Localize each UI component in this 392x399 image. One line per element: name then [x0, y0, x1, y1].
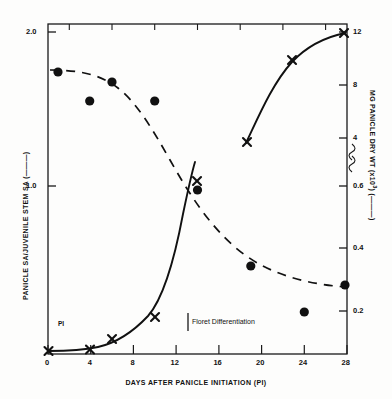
y2-axis-tick-label: 8 — [353, 80, 357, 89]
data-point-circle — [85, 96, 94, 105]
y-axis-tick-label: 2.0 — [26, 27, 36, 36]
x-axis-tick-label: 8 — [130, 358, 134, 367]
left-axis-ticks — [48, 32, 56, 186]
figure-panel: 2.0 1.0 12 8 4 0.6 0.4 0.2 0 4 8 12 16 2… — [0, 0, 392, 399]
x-axis-tick-label: 20 — [256, 358, 264, 367]
top-axis-ticks — [69, 24, 325, 30]
y2-axis-tick-label: 4 — [353, 133, 357, 142]
x-axis-tick-label: 12 — [171, 358, 179, 367]
panicle-sa-fit-curve — [50, 70, 345, 287]
data-point-circle — [193, 185, 202, 194]
data-point-x — [151, 313, 159, 321]
y2-axis-title-tail: ) (———) — [369, 189, 376, 221]
x-axis-tick-label: 0 — [45, 358, 49, 367]
data-point-x — [193, 177, 201, 185]
x-axis-tick-label: 24 — [299, 358, 307, 367]
data-point-circle — [53, 67, 62, 76]
y2-axis-tick-label: 0.6 — [353, 181, 363, 190]
annotation-floret-differentiation: Floret Differentiation — [192, 318, 255, 325]
y2-axis-title: MG PANICLE DRY WT (x103) (———) — [369, 90, 378, 221]
series-panicle-sa-ratio — [50, 67, 350, 316]
chart-plot-area — [0, 0, 392, 399]
right-axis-ticks — [339, 32, 347, 311]
data-point-circle — [300, 307, 309, 316]
y-axis-title: PANICLE SA/JUVENILE STEM SA (———) — [22, 152, 29, 300]
x-axis-tick-label: 4 — [88, 358, 92, 367]
y2-axis-tick-label: 12 — [353, 27, 361, 36]
data-point-circle — [150, 96, 159, 105]
y2-axis-title-main: MG PANICLE DRY WT (x10 — [369, 90, 376, 185]
data-point-circle — [246, 261, 255, 270]
panicle-sa-markers — [53, 67, 349, 316]
dry-weight-fit-curve-lower — [49, 162, 195, 351]
axis-break-squiggle-icon — [349, 144, 355, 172]
dry-weight-fit-curve-upper — [246, 33, 345, 143]
data-point-circle — [340, 280, 349, 289]
x-axis-tick-label: 16 — [213, 358, 221, 367]
annotation-pi: PI — [58, 320, 64, 327]
x-axis-tick-label: 28 — [342, 358, 350, 367]
x-axis-title: DAYS AFTER PANICLE INITIATION (PI) — [0, 379, 392, 386]
y2-axis-tick-label: 0.4 — [353, 243, 363, 252]
data-point-circle — [107, 77, 116, 86]
y2-axis-tick-label: 0.2 — [353, 306, 363, 315]
